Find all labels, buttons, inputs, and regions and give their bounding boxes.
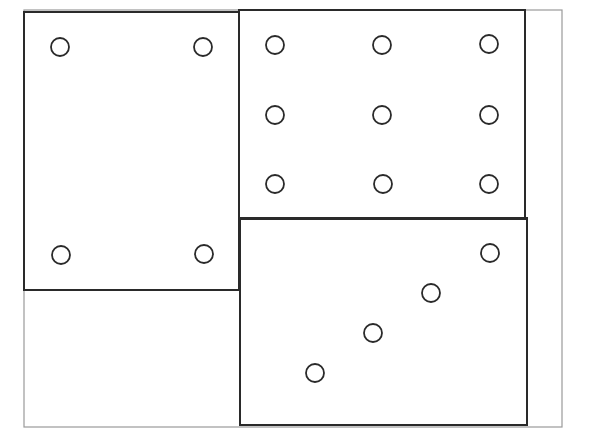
circle-icon bbox=[373, 36, 391, 54]
circle-icon bbox=[481, 244, 499, 262]
circle-icon bbox=[364, 324, 382, 342]
circle-icon bbox=[374, 175, 392, 193]
circle-icon bbox=[52, 246, 70, 264]
circle-icon bbox=[51, 38, 69, 56]
circle-icon bbox=[480, 175, 498, 193]
boxes-layer bbox=[24, 10, 527, 425]
bottom-right-box-circles bbox=[306, 244, 499, 382]
circle-icon bbox=[266, 175, 284, 193]
left-box-circles bbox=[51, 38, 213, 264]
circle-icon bbox=[306, 364, 324, 382]
circle-icon bbox=[266, 36, 284, 54]
circles-layer bbox=[51, 35, 499, 382]
circle-icon bbox=[195, 245, 213, 263]
circle-icon bbox=[480, 35, 498, 53]
circle-icon bbox=[373, 106, 391, 124]
top-right-box-circles bbox=[266, 35, 498, 193]
circle-icon bbox=[422, 284, 440, 302]
diagram-canvas bbox=[0, 0, 591, 445]
circle-icon bbox=[480, 106, 498, 124]
circle-icon bbox=[194, 38, 212, 56]
circle-icon bbox=[266, 106, 284, 124]
